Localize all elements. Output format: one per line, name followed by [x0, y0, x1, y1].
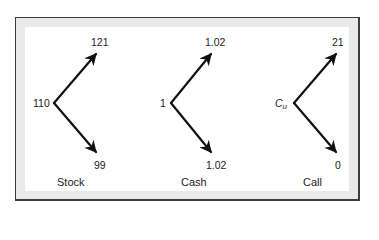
cash-caption: Cash	[181, 176, 207, 189]
call-tree-arrows	[294, 54, 336, 152]
call-up-arrow	[294, 54, 336, 103]
cash-tree-arrows	[171, 54, 211, 152]
stock-caption: Stock	[57, 176, 85, 189]
cash-down-value: 1.02	[206, 159, 226, 171]
cash-up-value: 1.02	[205, 36, 225, 48]
stock-up-value: 121	[91, 36, 109, 48]
call-root-subscript: u	[283, 102, 287, 111]
stock-down-value: 99	[94, 159, 106, 171]
cash-up-arrow	[171, 54, 211, 103]
call-root-symbol: C	[275, 97, 283, 109]
call-up-value: 21	[332, 36, 344, 48]
call-down-arrow	[294, 103, 336, 152]
stock-tree-arrows	[54, 54, 96, 152]
cash-root-value: 1	[160, 97, 166, 109]
stock-root-value: 110	[33, 97, 50, 109]
stock-down-arrow	[54, 103, 96, 152]
call-down-value: 0	[335, 159, 341, 171]
call-root-value: Cu	[275, 97, 287, 113]
cash-down-arrow	[171, 103, 211, 152]
call-caption: Call	[303, 176, 322, 189]
stock-up-arrow	[54, 54, 96, 103]
